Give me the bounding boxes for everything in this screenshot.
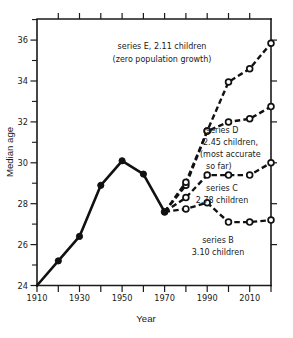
annotation-series-d-line4: so far): [206, 162, 232, 171]
annotation-series-e: series E, 2.11 children (zero population…: [113, 42, 212, 64]
x-tick-label: 1970: [154, 293, 175, 303]
chart-svg: 24 26 28 30 32 34 36: [0, 0, 293, 338]
annotation-series-b-line2: 3.10 children: [192, 248, 244, 257]
y-tick-label: 26: [18, 240, 28, 250]
y-tick-label: 24: [18, 281, 28, 291]
y-tick-label: 34: [18, 76, 28, 86]
x-tick-label: 1930: [69, 293, 90, 303]
y-axis-title: Median age: [4, 127, 15, 177]
x-tick-label: 2010: [239, 293, 260, 303]
annotation-series-b: series B 3.10 children: [192, 236, 244, 257]
data-point: [98, 182, 104, 188]
series-historical-line: [37, 161, 165, 286]
data-point: [247, 219, 253, 225]
data-point-branch: [161, 209, 168, 216]
x-tick-label: 1990: [197, 293, 218, 303]
data-point: [140, 171, 146, 177]
data-point: [226, 219, 232, 225]
data-point: [268, 217, 274, 223]
annotation-series-d: series D 2.45 children, (most accurate s…: [200, 126, 261, 171]
data-point: [226, 79, 232, 85]
y-tick-label: 28: [18, 199, 28, 209]
y-tick-labels: 24 26 28 30 32 34 36: [18, 35, 28, 290]
data-point: [247, 172, 253, 178]
annotation-series-c-line2: 2.78 children: [196, 196, 248, 205]
data-point: [247, 116, 253, 122]
data-point: [268, 104, 274, 110]
data-point: [247, 66, 253, 72]
data-point: [226, 119, 232, 125]
data-point: [76, 233, 82, 239]
data-point: [268, 160, 274, 166]
y-tick-label: 32: [18, 117, 28, 127]
x-tick-labels: 1910 1930 1950 1970 1990 2010: [27, 293, 261, 303]
annotation-series-e-line1: series E, 2.11 children: [118, 42, 207, 51]
median-age-projection-chart: 24 26 28 30 32 34 36: [0, 0, 293, 338]
x-tick-label: 1910: [27, 293, 48, 303]
data-point: [183, 206, 189, 212]
x-axis-title: Year: [136, 313, 156, 324]
series-b-line: [165, 203, 271, 222]
y-tick-label: 36: [18, 35, 28, 45]
y-tick-label: 30: [18, 158, 28, 168]
x-tick-label: 1950: [112, 293, 133, 303]
data-point: [226, 172, 232, 178]
data-point: [183, 179, 189, 185]
data-point: [268, 40, 274, 46]
data-point: [204, 172, 210, 178]
annotation-series-c: series C 2.78 children: [196, 184, 248, 205]
annotation-series-b-line1: series B: [202, 236, 234, 245]
annotation-series-d-line3: (most accurate: [200, 150, 261, 159]
data-point: [119, 158, 125, 164]
annotation-series-d-line1: series D: [206, 126, 238, 135]
annotation-series-c-line1: series C: [206, 184, 238, 193]
data-point: [55, 258, 61, 264]
data-point: [183, 195, 189, 201]
annotation-series-d-line2: 2.45 children,: [203, 138, 258, 147]
annotation-series-e-line2: (zero population growth): [113, 55, 212, 64]
